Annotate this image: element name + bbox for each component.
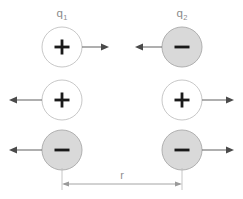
minus-sign-icon — [175, 149, 190, 152]
charge-row1-right — [135, 27, 202, 67]
force-arrow-head-left-icon — [9, 97, 17, 104]
force-arrow-head-left-icon — [9, 147, 17, 154]
left-charge-label: q1 — [56, 7, 67, 22]
left-charge-label-text: q — [56, 7, 62, 19]
force-arrow-head-right-icon — [101, 44, 109, 51]
right-charge-label-text: q — [176, 7, 182, 19]
charge-row-repulsion-positive — [9, 80, 234, 120]
force-arrow-head-right-icon — [226, 147, 234, 154]
distance-label: r — [120, 169, 124, 181]
charge-row-repulsion-negative — [9, 130, 234, 170]
force-arrow-head-left-icon — [135, 44, 143, 51]
minus-sign-icon — [175, 46, 190, 49]
dimension-arrow-head-right-icon — [175, 181, 182, 186]
plus-sign-icon — [61, 93, 64, 108]
charge-row2-left — [9, 80, 82, 120]
right-charge-label: q2 — [176, 7, 187, 22]
plus-sign-icon — [181, 93, 184, 108]
minus-sign-icon — [55, 149, 70, 152]
charge-row-attraction — [42, 27, 202, 67]
dimension-arrow-head-left-icon — [62, 181, 69, 186]
left-charge-label-subscript: 1 — [63, 13, 67, 22]
charge-row3-right — [162, 130, 234, 170]
charge-row2-right — [162, 80, 234, 120]
force-arrow-head-right-icon — [226, 97, 234, 104]
plus-sign-icon — [61, 40, 64, 55]
distance-dimension: r — [62, 168, 182, 190]
coulomb-law-diagram: q1 q2 — [0, 0, 243, 199]
charge-row3-left — [9, 130, 82, 170]
diagram-canvas: q1 q2 — [0, 0, 243, 199]
charge-row1-left — [42, 27, 109, 67]
right-charge-label-subscript: 2 — [183, 13, 187, 22]
